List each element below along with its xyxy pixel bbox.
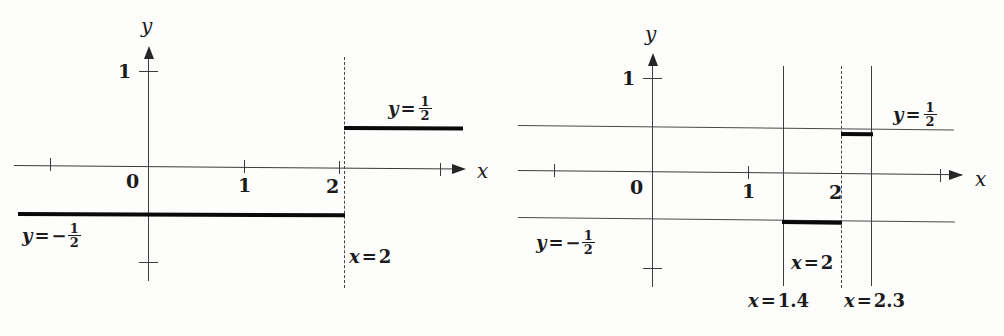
lower-value-numerator: 1 [582, 229, 595, 242]
lower-value-label: y=−12 [536, 229, 596, 256]
x-tick-three [940, 169, 941, 182]
upper-value-equals: = [398, 98, 417, 119]
upper-value-label: y=12 [893, 101, 938, 128]
strip-left-variable: x [748, 290, 759, 311]
y-axis-line [652, 65, 653, 287]
x-axis-arrowhead [452, 164, 466, 174]
upper-value-fraction: 12 [924, 101, 937, 128]
upper-value-variable: y [893, 104, 903, 125]
lower-value-variable: y [536, 232, 546, 253]
x-tick-two [339, 161, 340, 174]
x-axis-label: x [477, 161, 488, 181]
y-axis-line [148, 58, 149, 281]
dashed-line-equals: = [360, 246, 379, 267]
dashed-line-variable: x [791, 252, 802, 273]
upper-value-fraction: 12 [419, 95, 432, 122]
x-tick-one-label: 1 [238, 176, 251, 195]
left-panel: x y 1 0 1 2 y=12 y=−12 x=2 [0, 0, 502, 336]
y-tick-one [139, 71, 158, 72]
y-tick-minus-one [139, 262, 158, 263]
lower-value-equals: = [546, 232, 565, 253]
strip-left-value: 1.4 [778, 290, 809, 311]
upper-value-label: y=12 [388, 95, 433, 122]
strip-right-value: 2.3 [874, 290, 905, 311]
lower-value-minus-sign: − [566, 232, 581, 253]
lower-value-minus-sign: − [52, 225, 67, 246]
x-tick-origin-label: 0 [630, 178, 643, 197]
x-axis-line [14, 165, 463, 170]
x-axis-label: x [975, 169, 986, 189]
upper-value-denominator: 2 [419, 109, 432, 122]
strip-left-equals: = [759, 290, 778, 311]
lower-value-denominator: 2 [68, 236, 81, 249]
strip-line-x-2point3 [871, 66, 872, 286]
dashed-line-x-equals-2 [841, 66, 842, 288]
upper-highlight-segment [841, 132, 873, 136]
strip-left-label: x=1.4 [748, 292, 809, 310]
dashed-line-value: 2 [821, 252, 834, 273]
strip-line-x-1point4 [783, 66, 784, 286]
y-axis-arrowhead [144, 46, 154, 59]
right-panel: x y 1 0 1 2 y=12 y=−12 [502, 0, 1004, 336]
upper-branch-segment [344, 126, 463, 130]
dashed-line-label: x=2 [349, 248, 391, 266]
figure-root: x y 1 0 1 2 y=12 y=−12 x=2 [0, 0, 1004, 336]
reference-line-y-half [518, 125, 954, 131]
lower-value-equals: = [32, 225, 51, 246]
x-tick-two-label: 2 [326, 177, 339, 196]
dashed-line-variable: x [349, 246, 360, 267]
upper-value-denominator: 2 [924, 115, 937, 128]
y-axis-label: y [645, 24, 656, 44]
strip-right-equals: = [855, 290, 874, 311]
x-tick-minus-one [554, 164, 555, 177]
lower-value-fraction: 12 [68, 222, 81, 249]
x-tick-minus-one [50, 158, 51, 171]
y-axis-arrowhead [648, 53, 658, 66]
y-axis-label: y [141, 16, 152, 36]
x-tick-one [244, 160, 245, 173]
lower-value-variable: y [22, 225, 32, 246]
x-tick-one-label: 1 [742, 182, 755, 201]
upper-value-equals: = [903, 104, 922, 125]
lower-value-denominator: 2 [582, 243, 595, 256]
x-axis-line [518, 170, 962, 175]
strip-right-label: x=2.3 [844, 292, 905, 310]
y-tick-one-label: 1 [118, 62, 131, 81]
lower-value-numerator: 1 [68, 222, 81, 235]
lower-value-label: y=−12 [22, 222, 82, 249]
reference-line-y-minus-half [518, 217, 955, 223]
x-axis-arrowhead [949, 170, 963, 180]
dashed-line-equals: = [802, 252, 821, 273]
dashed-line-value: 2 [379, 246, 392, 267]
strip-right-variable: x [844, 290, 855, 311]
upper-value-numerator: 1 [419, 95, 432, 108]
lower-branch-segment [18, 212, 345, 217]
upper-value-variable: y [388, 98, 398, 119]
dashed-line-label: x=2 [791, 254, 833, 272]
lower-highlight-segment [782, 220, 842, 224]
dashed-line-x-equals-2 [344, 57, 345, 288]
y-tick-one-label: 1 [622, 69, 635, 88]
x-tick-three [440, 163, 441, 176]
y-tick-minus-one [643, 268, 662, 269]
y-tick-one [643, 78, 662, 79]
upper-value-numerator: 1 [924, 101, 937, 114]
x-tick-one [748, 166, 749, 179]
lower-value-fraction: 12 [582, 229, 595, 256]
x-tick-origin-label: 0 [126, 172, 139, 191]
